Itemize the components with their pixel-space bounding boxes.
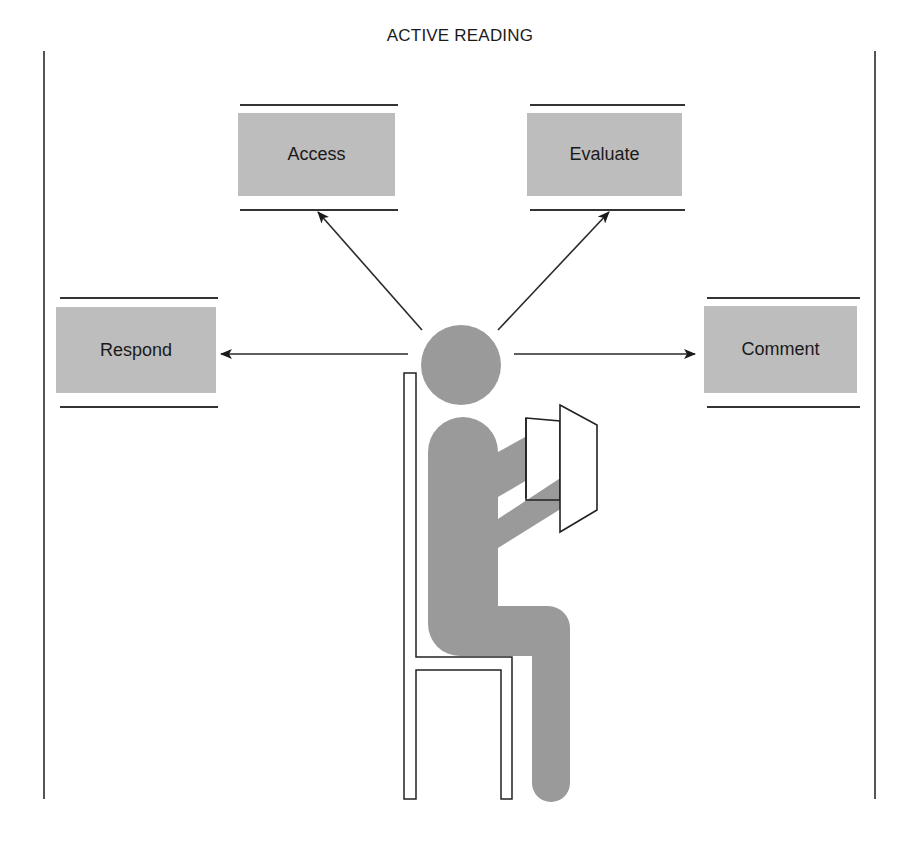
reader-figure-and-arrows bbox=[0, 0, 920, 842]
arrow-to-access bbox=[318, 212, 422, 330]
arrow-to-evaluate bbox=[498, 212, 609, 330]
